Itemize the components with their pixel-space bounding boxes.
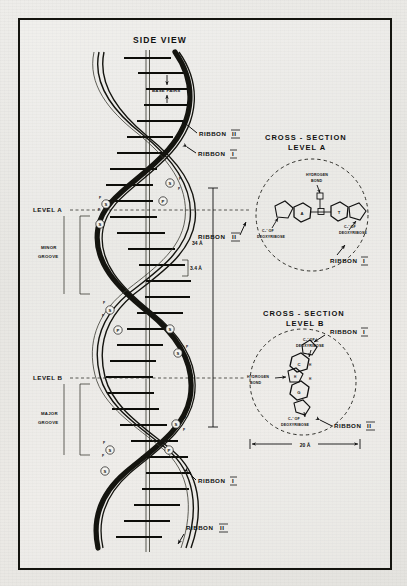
ribbon-ii-mid-callout: RIBBON II	[198, 222, 246, 241]
bead-p-label: P	[184, 416, 186, 420]
bead-label: S	[169, 327, 172, 332]
bead-p-label: P	[103, 301, 105, 305]
cross-section-a-base-pair: A T	[275, 193, 366, 222]
left-sugar-line1: C₁' OF	[262, 229, 274, 233]
hydrogen-bond-mark	[317, 193, 323, 199]
base-pairs-label: BASE PAIRS	[152, 88, 180, 93]
cross-section-a-hbond-callout: HYDROGEN BOND	[306, 173, 328, 193]
base-right-label: T	[338, 210, 341, 215]
bead-label: S	[169, 181, 172, 186]
major-groove-label-line2: GROOVE	[38, 420, 58, 425]
cross-section-a: CROSS - SECTION LEVEL A A T HYDROGEN BON…	[256, 133, 368, 271]
bead-p-label: P	[178, 187, 180, 191]
bead-label: S	[105, 202, 108, 207]
cross-section-b-ribbon-bottom-label: RIBBON	[334, 422, 361, 429]
ribbon-ii-top-callout: RIBBON II	[186, 124, 240, 138]
backbone-bead: P	[159, 197, 167, 205]
cross-section-b-ribbon-bottom-numeral: II	[367, 422, 371, 429]
bead-p-label: P	[185, 357, 187, 361]
hydrogen-bond-label-line2: BOND	[311, 179, 322, 183]
base-left-label: A	[300, 211, 303, 216]
cross-section-b-ribbon-top-numeral: I	[363, 328, 365, 335]
bead-p-label: P	[103, 441, 105, 445]
backbone-bead: S	[101, 467, 109, 475]
cross-section-a-title-line2: LEVEL A	[288, 143, 326, 152]
bead-p-label: P	[99, 196, 101, 200]
pitch-measure-group: 34 Å	[192, 188, 218, 427]
side-view-title: SIDE VIEW	[133, 35, 187, 45]
bead-label: S	[109, 448, 112, 453]
helix-axis	[146, 50, 150, 552]
cross-section-a-ribbon-i-callout: RIBBON I	[330, 245, 368, 265]
minor-groove-bracket: MINOR GROOVE	[38, 216, 90, 294]
level-b-label: LEVEL B	[33, 374, 63, 381]
bead-label: P	[168, 448, 171, 453]
ribbon-ii-bottom-numeral: II	[220, 524, 224, 531]
minor-groove-label-line1: MINOR	[41, 245, 57, 250]
cross-section-b-hbond-callout: HYDROGEN BOND	[247, 375, 286, 385]
left-sugar-line2: DEOXYRIBOSE	[257, 235, 285, 239]
ribbon-ii-top-numeral: II	[232, 130, 236, 137]
pitch-measure-label: 34 Å	[192, 240, 203, 246]
level-a-label: LEVEL A	[33, 206, 62, 213]
ribbon-i-top-label: RIBBON	[198, 150, 225, 157]
bead-label: S	[109, 308, 112, 313]
cross-section-b-top-sugar-callout: C₁' OF DEOXYRIBOSE	[296, 338, 324, 357]
deoxyribose-ring-right	[349, 203, 366, 220]
ribbon-i-top-numeral: I	[232, 150, 234, 157]
backbone-bead: P	[114, 326, 122, 334]
backbone-bead: S P P	[166, 177, 181, 191]
bead-p-label: P	[179, 177, 181, 181]
bead-p-label: P	[183, 428, 185, 432]
bead-label: P	[162, 199, 165, 204]
ribbon-ii-bottom-label: RIBBON	[186, 524, 213, 531]
cross-section-b-ribbon-i-callout: RIBBON I	[314, 328, 368, 342]
base-bottom-label: G	[297, 390, 300, 395]
hydrogen-bond-mark: H	[309, 363, 312, 367]
level-a-guide: LEVEL A	[33, 206, 250, 213]
hydrogen-bond-label-line2: BOND	[250, 381, 261, 385]
rise-measure-label: 3.4 Å	[190, 265, 202, 271]
bead-label: S	[175, 422, 178, 427]
diameter-measure-label: 20 Å	[300, 442, 311, 448]
hydrogen-bond-label-line1: HYDROGEN	[306, 173, 328, 177]
cross-section-b-title-line1: CROSS - SECTION	[263, 309, 345, 318]
backbone-bead: S	[166, 325, 174, 333]
backbone-bead: P	[165, 446, 173, 454]
cross-section-b-ribbon-top-label: RIBBON	[330, 328, 357, 335]
rise-measure-group: 3.4 Å	[182, 260, 202, 276]
ribbon-ii-mid-label: RIBBON	[198, 233, 225, 240]
bead-label: P	[117, 328, 120, 333]
bottom-sugar-line2: DEOXYRIBOSE	[281, 423, 309, 427]
cross-section-b-base-pair: C G H H H	[288, 340, 317, 415]
bead-label: S	[177, 351, 180, 356]
cross-section-a-title-line1: CROSS - SECTION	[265, 133, 347, 142]
right-sugar-line2: DEOXYRIBOSE	[339, 231, 367, 235]
ribbon-ii-top-label: RIBBON	[199, 130, 226, 137]
cross-section-a-ribbon-label: RIBBON	[330, 257, 357, 264]
cross-section-b-title-line2: LEVEL B	[286, 319, 325, 328]
ribbon-i-bottom-label: RIBBON	[198, 477, 225, 484]
ribbon-i-top-callout: RIBBON I	[187, 147, 237, 158]
bead-p-label: P	[102, 314, 104, 318]
hydrogen-bond-label-line1: HYDROGEN	[247, 375, 269, 379]
base-pairs-callout: BASE PAIRS	[152, 75, 180, 103]
bead-label: S	[99, 222, 102, 227]
base-top-label: C	[297, 362, 300, 367]
major-groove-bracket: MAJOR GROOVE	[38, 384, 90, 455]
bead-label: S	[104, 469, 107, 474]
cross-section-a-left-sugar-callout: C₁' OF DEOXYRIBOSE	[257, 218, 285, 239]
dna-figure: SIDE VIEW	[0, 0, 407, 586]
hydrogen-bond-mark: H	[294, 375, 297, 379]
deoxyribose-ring-bottom	[294, 400, 310, 415]
cross-section-b-ribbon-ii-callout: RIBBON II	[320, 420, 375, 430]
deoxyribose-ring-left	[275, 201, 293, 218]
hydrogen-bond-mark	[318, 209, 324, 215]
bottom-sugar-line1: C₁' OF	[288, 417, 300, 421]
cross-section-a-right-sugar-callout: C₁' OF DEOXYRIBOSE	[339, 221, 367, 235]
ribbon-ii-bottom-callout: RIBBON II	[178, 524, 228, 544]
ribbon-i-bottom-callout: RIBBON I	[188, 472, 237, 485]
bead-p-label: P	[186, 345, 188, 349]
top-sugar-line1: C₁' OF	[303, 338, 315, 342]
diameter-measure-group: 20 Å	[250, 438, 360, 449]
